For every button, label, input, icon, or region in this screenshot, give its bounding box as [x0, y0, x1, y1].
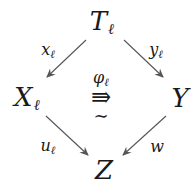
label-x-sub: ℓ	[50, 48, 55, 61]
label-y: yℓ	[149, 40, 163, 61]
node-right-main: Y	[171, 83, 188, 113]
label-x: xℓ	[41, 40, 55, 61]
label-y-main: y	[149, 40, 158, 59]
label-u: uℓ	[41, 136, 56, 157]
label-w: w	[150, 137, 164, 156]
node-right: Y	[171, 83, 188, 113]
node-left-main: X	[14, 82, 33, 112]
node-bottom: Z	[95, 155, 113, 185]
node-left: Xℓ	[14, 82, 40, 114]
tilde-icon: ∼	[93, 105, 108, 126]
commutative-diagram: Tℓ Xℓ Y Z xℓ yℓ uℓ w φℓ ⇛ ∼	[0, 0, 196, 190]
label-u-main: u	[41, 136, 51, 155]
node-top-sub: ℓ	[108, 20, 114, 38]
label-w-main: w	[150, 137, 164, 156]
node-top: Tℓ	[90, 6, 115, 38]
label-y-sub: ℓ	[158, 48, 163, 61]
node-top-main: T	[90, 6, 107, 36]
node-left-sub: ℓ	[34, 96, 40, 114]
label-u-sub: ℓ	[51, 144, 56, 157]
label-x-main: x	[41, 40, 50, 59]
node-bottom-main: Z	[95, 155, 113, 185]
